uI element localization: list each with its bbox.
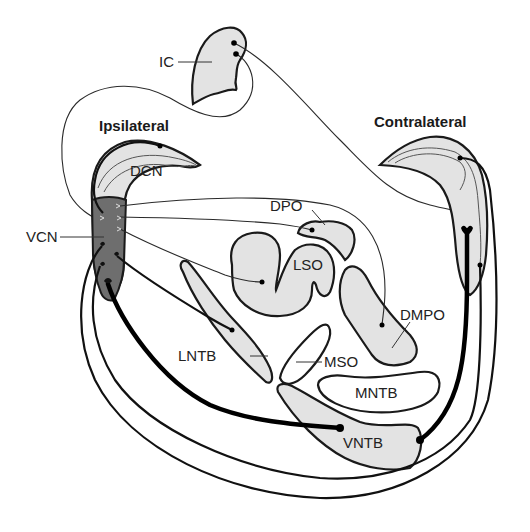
vntb-terminal-dot: [336, 424, 344, 432]
dpo-terminal-dot: [310, 228, 315, 233]
ic-terminal-dot: [233, 51, 239, 57]
lntb-label: LNTB: [178, 347, 216, 364]
lntb-terminal-dot: [230, 328, 235, 333]
mso-label: MSO: [324, 353, 358, 370]
dcn-label: DCN: [130, 162, 163, 179]
vntb-contralateral-terminal-dot: [416, 436, 424, 444]
dcn-terminal-dot: [158, 144, 163, 149]
ic-label: IC: [159, 53, 174, 70]
vntb-label: VNTB: [343, 434, 383, 451]
mntb-label: MNTB: [355, 384, 398, 401]
ic-nucleus: [192, 28, 246, 104]
vcn-label: VCN: [26, 228, 58, 245]
auditory-brainstem-diagram: IC Ipsilateral DCN VCN Contralateral DPO…: [0, 0, 530, 532]
ipsilateral-label: Ipsilateral: [99, 117, 169, 134]
contralateral-terminal-dot: [458, 156, 463, 161]
lso-nucleus: [231, 233, 334, 316]
lso-label: LSO: [293, 256, 323, 273]
ic-terminal-dot: [231, 40, 237, 46]
contralateral-terminal-dot: [478, 263, 483, 268]
contralateral-label: Contralateral: [374, 113, 467, 130]
dmpo-label: DMPO: [400, 306, 445, 323]
vcn-to-dpo-fiber: [120, 217, 312, 230]
lso-terminal-dot: [260, 280, 265, 285]
dmpo-terminal-dot: [380, 323, 385, 328]
mso-nucleus: [280, 325, 330, 384]
